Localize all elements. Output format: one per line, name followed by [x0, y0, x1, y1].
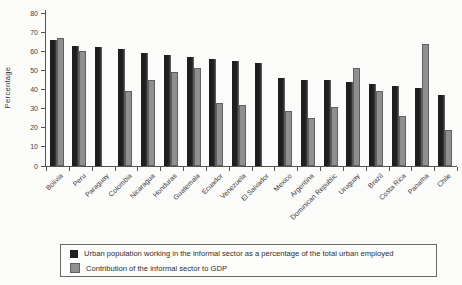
- bar-gdp-contribution-panama: [422, 44, 429, 166]
- bar-informal-employment-guatemala: [187, 57, 194, 166]
- x-tick: [366, 167, 367, 171]
- bar-informal-employment-venezuela: [232, 61, 239, 166]
- bar-gdp-contribution-costa-rica: [399, 116, 406, 166]
- bar-gdp-contribution-ecuador: [216, 103, 223, 166]
- x-tick: [434, 167, 435, 171]
- y-tick-0: [41, 166, 45, 167]
- legend-item-informal-employment: Urban population working in the informal…: [70, 249, 429, 258]
- bar-informal-employment-uruguay: [346, 82, 353, 166]
- x-tick: [389, 167, 390, 171]
- y-axis-title: Percentage: [3, 58, 12, 118]
- x-tick: [69, 167, 70, 171]
- y-tick-label-40: 40: [16, 86, 38, 93]
- y-tick-label-20: 20: [16, 124, 38, 131]
- bar-informal-employment-el-salvador: [255, 63, 262, 166]
- y-tick-80: [41, 13, 45, 14]
- bar-gdp-contribution-uruguay: [353, 68, 360, 166]
- y-tick-70: [41, 32, 45, 33]
- bar-informal-employment-ecuador: [209, 59, 216, 166]
- bar-gdp-contribution-venezuela: [239, 105, 246, 166]
- bar-informal-employment-costa-rica: [392, 86, 399, 166]
- x-tick: [252, 167, 253, 171]
- y-tick-60: [41, 51, 45, 52]
- y-tick-label-10: 10: [16, 143, 38, 150]
- bar-informal-employment-honduras: [164, 55, 171, 166]
- x-tick: [274, 167, 275, 171]
- bar-gdp-contribution-peru: [79, 51, 86, 166]
- y-tick-label-80: 80: [16, 10, 38, 17]
- bar-informal-employment-paraguay: [95, 47, 102, 166]
- bar-gdp-contribution-bolivia: [57, 38, 64, 166]
- bar-informal-employment-bolivia: [50, 40, 57, 166]
- legend-label-gdp-contribution: Contribution of the informal sector to G…: [86, 264, 227, 273]
- y-tick-10: [41, 146, 45, 147]
- x-tick: [457, 167, 458, 171]
- bar-informal-employment-colombia: [118, 49, 125, 166]
- bar-informal-employment-dominican-republic: [324, 80, 331, 166]
- legend-item-gdp-contribution: Contribution of the informal sector to G…: [70, 263, 429, 273]
- legend-label-informal-employment: Urban population working in the informal…: [84, 249, 393, 258]
- x-tick: [46, 167, 47, 171]
- bar-informal-employment-peru: [72, 46, 79, 166]
- x-tick: [206, 167, 207, 171]
- bar-gdp-contribution-colombia: [125, 91, 132, 166]
- y-tick-label-50: 50: [16, 67, 38, 74]
- bar-gdp-contribution-argentina: [308, 118, 315, 166]
- legend-swatch-gray: [70, 263, 80, 273]
- bar-gdp-contribution-brazil: [376, 91, 383, 166]
- bar-gdp-contribution-dominican-republic: [331, 107, 338, 166]
- bar-gdp-contribution-mexico: [285, 111, 292, 166]
- bar-informal-employment-panama: [415, 88, 422, 166]
- bar-informal-employment-mexico: [278, 78, 285, 166]
- bar-gdp-contribution-nicaragua: [148, 80, 155, 166]
- bar-gdp-contribution-guatemala: [194, 68, 201, 166]
- y-tick-label-60: 60: [16, 48, 38, 55]
- bar-informal-employment-argentina: [301, 80, 308, 166]
- x-tick: [137, 167, 138, 171]
- x-tick: [320, 167, 321, 171]
- bar-gdp-contribution-honduras: [171, 72, 178, 166]
- y-tick-label-30: 30: [16, 105, 38, 112]
- x-tick: [411, 167, 412, 171]
- x-tick: [343, 167, 344, 171]
- x-tick: [92, 167, 93, 171]
- legend-box: Urban population working in the informal…: [60, 244, 437, 277]
- y-tick-50: [41, 70, 45, 71]
- bar-informal-employment-brazil: [369, 84, 376, 166]
- y-tick-20: [41, 127, 45, 128]
- bar-informal-employment-chile: [438, 95, 445, 166]
- bar-informal-employment-nicaragua: [141, 53, 148, 166]
- y-tick-label-70: 70: [16, 29, 38, 36]
- bar-gdp-contribution-chile: [445, 130, 452, 166]
- y-axis-line: [45, 10, 46, 167]
- x-tick: [297, 167, 298, 171]
- legend-swatch-dark: [70, 250, 78, 258]
- y-tick-30: [41, 108, 45, 109]
- informal-sector-bar-chart: Percentage 01020304050607080 BoliviaPeru…: [0, 0, 462, 285]
- y-tick-label-0: 0: [16, 163, 38, 170]
- y-tick-40: [41, 89, 45, 90]
- x-tick: [183, 167, 184, 171]
- x-tick: [229, 167, 230, 171]
- x-tick: [115, 167, 116, 171]
- x-tick: [160, 167, 161, 171]
